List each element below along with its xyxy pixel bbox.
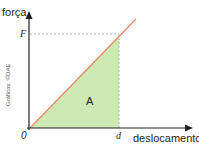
d-tick-label: d [116, 131, 121, 141]
y-axis-arrow-icon [26, 11, 33, 19]
area-label: A [86, 96, 93, 107]
origin-label: 0 [21, 131, 27, 141]
f-tick-label: F [20, 29, 26, 39]
y-axis-label: força [2, 7, 26, 18]
chart-canvas [0, 0, 199, 148]
x-axis-label: deslocamento [133, 133, 199, 144]
x-axis-arrow-icon [185, 125, 193, 132]
credit-text: Gráficos: ©DAE [5, 64, 11, 106]
